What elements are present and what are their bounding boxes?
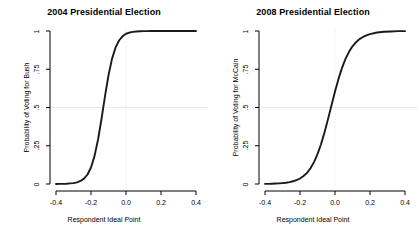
y-tick-2008-0: 0 bbox=[241, 175, 250, 193]
axis-lines-2004 bbox=[46, 31, 196, 195]
x-tick-2008-1: -0.2 bbox=[287, 198, 313, 207]
y-tick-2008-3: .75 bbox=[241, 60, 250, 78]
y-tick-2004-2: .5 bbox=[32, 99, 41, 117]
y-tick-2008-1: .25 bbox=[241, 137, 250, 155]
y-tick-2004-3: .75 bbox=[32, 60, 41, 78]
chart-panel-2008: 2008 Presidential Election Probability o… bbox=[209, 0, 417, 237]
figure-panel-grid: 2004 Presidential Election Probability o… bbox=[0, 0, 417, 237]
x-tick-2008-2: 0.0 bbox=[322, 198, 348, 207]
y-tick-2004-1: .25 bbox=[32, 137, 41, 155]
chart-panel-2004: 2004 Presidential Election Probability o… bbox=[0, 0, 208, 237]
x-tick-2004-2: 0.0 bbox=[113, 198, 139, 207]
reference-lines-2004 bbox=[52, 28, 208, 188]
x-tick-2008-0: -0.4 bbox=[252, 198, 278, 207]
x-tick-2004-3: 0.2 bbox=[148, 198, 174, 207]
y-tick-2008-2: .5 bbox=[241, 99, 250, 117]
x-tick-2008-3: 0.2 bbox=[357, 198, 383, 207]
x-tick-2008-4: 0.4 bbox=[392, 198, 417, 207]
y-tick-2008-4: 1 bbox=[241, 22, 250, 40]
y-tick-2004-4: 1 bbox=[32, 22, 41, 40]
x-tick-2004-4: 0.4 bbox=[183, 198, 209, 207]
x-tick-2004-0: -0.4 bbox=[43, 198, 69, 207]
x-tick-2004-1: -0.2 bbox=[78, 198, 104, 207]
reference-lines-2008 bbox=[261, 28, 417, 188]
y-tick-2004-0: 0 bbox=[32, 175, 41, 193]
